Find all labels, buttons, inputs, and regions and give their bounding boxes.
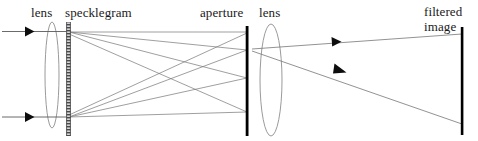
diffracted-ray-bundle [69, 32, 247, 117]
input-arrowhead-upper [25, 27, 35, 37]
output-ray-lower [252, 51, 462, 124]
input-arrowhead-lower [25, 112, 35, 122]
ray-upper-order-p3 [69, 34, 247, 112]
ray-upper-order-p1 [69, 32, 247, 50]
aperture-element [246, 26, 249, 136]
output-ray-upper [252, 34, 462, 49]
output-rays [252, 34, 462, 124]
input-lens-element [45, 22, 59, 128]
ray-upper-order-p2 [69, 32, 247, 78]
ray-lower-order-0 [69, 112, 247, 117]
input-beam-arrowheads [25, 27, 35, 122]
label-specklegram: specklegram [65, 6, 132, 20]
label-output-lens: lens [259, 6, 280, 20]
label-input-lens: lens [31, 6, 52, 20]
label-aperture: aperture [200, 6, 243, 20]
input-beams [2, 32, 67, 118]
optical-ray-diagram: lens specklegram aperture lens filtered … [0, 0, 478, 141]
ray-lower-order-m3 [69, 33, 247, 115]
label-filtered-image: filtered image [424, 4, 462, 34]
output-lens-element [260, 24, 282, 136]
label-filtered-image-line1: filtered [424, 4, 462, 19]
output-arrowhead-upper [332, 37, 342, 47]
output-arrowhead-lower [333, 64, 347, 74]
optics-canvas [0, 0, 478, 141]
filtered-image-screen [461, 27, 464, 135]
label-filtered-image-line2: image [424, 19, 462, 34]
specklegram-element [67, 22, 71, 136]
